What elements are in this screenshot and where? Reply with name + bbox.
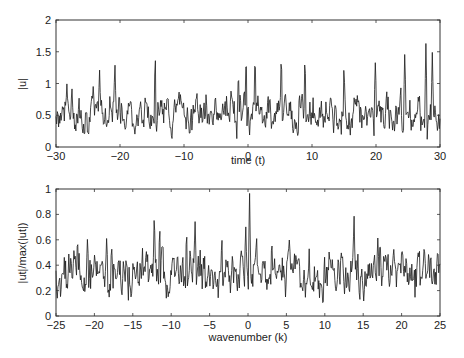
y-tick-label: 0.8 — [36, 208, 51, 220]
x-tick-label: 30 — [434, 150, 446, 162]
x-tick-label: 15 — [357, 319, 369, 331]
x-tick-label: 5 — [283, 319, 289, 331]
top-plot-time-signal: −30−20−10010203000.511.52 — [36, 14, 446, 162]
y-tick-label: 0.4 — [36, 259, 51, 271]
y-tick-label: 1.5 — [36, 46, 51, 58]
y-tick-label: 0 — [45, 141, 51, 153]
x-tick-label: −15 — [123, 319, 142, 331]
y-tick-label: 0.6 — [36, 234, 51, 246]
x-tick-label: 20 — [395, 319, 407, 331]
y-tick-label: 1 — [45, 78, 51, 90]
data-line — [56, 44, 440, 140]
top-y-axis-label: |u| — [16, 78, 28, 90]
figure: −30−20−10010203000.511.52 −25−20−15−10−5… — [0, 0, 464, 358]
x-tick-label: −20 — [85, 319, 104, 331]
data-line — [56, 193, 440, 302]
x-tick-label: 25 — [434, 319, 446, 331]
x-tick-label: −20 — [111, 150, 130, 162]
axes-frame — [56, 20, 440, 147]
x-tick-label: 10 — [319, 319, 331, 331]
bottom-x-axis-label: wavenumber (k) — [208, 331, 288, 343]
y-tick-label: 0.5 — [36, 109, 51, 121]
x-tick-label: 0 — [245, 319, 251, 331]
y-tick-label: 1 — [45, 183, 51, 195]
x-tick-label: −10 — [162, 319, 181, 331]
y-tick-label: 2 — [45, 14, 51, 26]
y-tick-label: 0 — [45, 310, 51, 322]
x-tick-label: −5 — [203, 319, 216, 331]
top-x-axis-label: time (t) — [231, 154, 265, 166]
y-tick-label: 0.2 — [36, 285, 51, 297]
axes-frame — [56, 189, 440, 316]
x-tick-label: −10 — [175, 150, 194, 162]
x-tick-label: 10 — [306, 150, 318, 162]
x-tick-label: 20 — [370, 150, 382, 162]
bottom-y-axis-label: |ut|/max(|ut|) — [16, 223, 28, 284]
bottom-plot-spectrum: −25−20−15−10−5051015202500.20.40.60.81 — [36, 183, 446, 331]
